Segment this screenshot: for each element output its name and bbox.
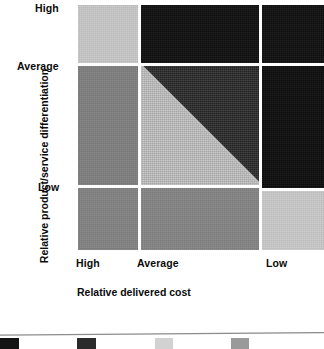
matrix-cell-high-low	[262, 5, 324, 63]
x-axis-tick-low: Low	[266, 257, 287, 269]
matrix-cell-high-average	[141, 5, 259, 63]
footer-divider	[0, 332, 324, 336]
legend-swatch-light	[155, 338, 173, 349]
matrix-cell-low-average	[141, 188, 259, 250]
y-axis-tick-average: Average	[17, 60, 59, 72]
y-axis-title: Relative product/service differentiation	[38, 43, 50, 289]
x-axis-tick-high: High	[76, 257, 100, 269]
matrix-cell-average-low	[262, 66, 324, 188]
matrix-cell-low-low	[262, 191, 324, 250]
y-axis-tick-low: Low	[38, 181, 59, 193]
matrix-cell-average-average	[141, 66, 259, 185]
legend-swatch-dark	[77, 338, 96, 349]
matrix-chart: Relative product/service differentiation…	[0, 0, 324, 300]
x-axis-tick-average: Average	[137, 257, 179, 269]
matrix-cell-low-high	[78, 188, 138, 250]
matrix-grid	[78, 5, 324, 250]
matrix-cell-high-high	[78, 5, 138, 63]
matrix-cell-average-high	[78, 66, 138, 185]
legend-swatch-black	[0, 338, 19, 349]
x-axis-title: Relative delivered cost	[77, 286, 191, 298]
y-axis-tick-high: High	[35, 2, 59, 14]
legend-swatch-medium	[231, 338, 249, 349]
legend-swatch-strip	[0, 338, 324, 349]
